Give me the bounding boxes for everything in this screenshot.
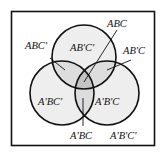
label-a-prime-b-prime-c-prime: A'B'C'	[109, 130, 137, 141]
label-a-prime-bc-prime: A'BC'	[37, 96, 63, 107]
label-abc: ABC	[106, 18, 128, 29]
venn-diagram: ABC ABC' AB'C' AB'C A'BC' A'B'C A'BC A'B…	[0, 0, 161, 155]
label-ab-prime-c: AB'C	[122, 45, 146, 56]
label-abc-prime: ABC'	[24, 40, 48, 51]
label-a-prime-bc: A'BC	[69, 130, 93, 141]
label-a-prime-b-prime-c: A'B'C	[94, 96, 120, 107]
label-ab-prime-c-prime: AB'C'	[69, 42, 95, 53]
